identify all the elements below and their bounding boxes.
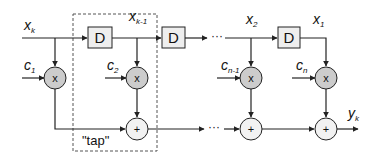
fir-filter-diagram: ··· D D D xk xk-1 x2 x1 c1 c2 cn-1 cn x … bbox=[0, 0, 375, 156]
svg-text:+: + bbox=[323, 123, 329, 135]
coef-label-c1: c1 bbox=[24, 57, 35, 75]
signal-label-x2: x2 bbox=[245, 11, 258, 29]
multiplier-n-1: x bbox=[240, 67, 262, 89]
svg-text:x: x bbox=[134, 72, 140, 84]
ellipsis-top: ··· bbox=[211, 29, 223, 43]
multiplier-2: x bbox=[126, 67, 148, 89]
svg-text:+: + bbox=[134, 123, 140, 135]
adder-1: + bbox=[126, 118, 148, 140]
svg-text:x: x bbox=[52, 72, 58, 84]
svg-text:x: x bbox=[323, 72, 329, 84]
delay-label: D bbox=[95, 29, 106, 46]
output-label-yk: yk bbox=[347, 105, 360, 123]
delay-box-1: D bbox=[88, 27, 112, 48]
signal-label-xk: xk bbox=[23, 17, 36, 35]
svg-text:+: + bbox=[248, 123, 254, 135]
coef-label-c2: c2 bbox=[107, 57, 119, 75]
signal-label-x1: x1 bbox=[312, 11, 324, 29]
delay-box-3: D bbox=[278, 27, 300, 48]
coef-label-cn-1: cn-1 bbox=[221, 57, 240, 75]
svg-text:x: x bbox=[248, 72, 254, 84]
delay-label: D bbox=[168, 29, 179, 46]
ellipsis-bottom: ··· bbox=[208, 120, 220, 134]
coef-label-cn: cn bbox=[296, 57, 308, 75]
signal-label-xk-1: xk-1 bbox=[128, 8, 147, 26]
multiplier-n: x bbox=[315, 67, 337, 89]
summation-path bbox=[55, 89, 358, 129]
multiplier-1: x bbox=[44, 67, 66, 89]
delay-box-2: D bbox=[162, 27, 185, 48]
delay-label: D bbox=[284, 29, 295, 46]
tap-annotation: "tap" bbox=[82, 133, 110, 148]
adder-n: + bbox=[315, 118, 337, 140]
adder-n-1: + bbox=[240, 118, 262, 140]
